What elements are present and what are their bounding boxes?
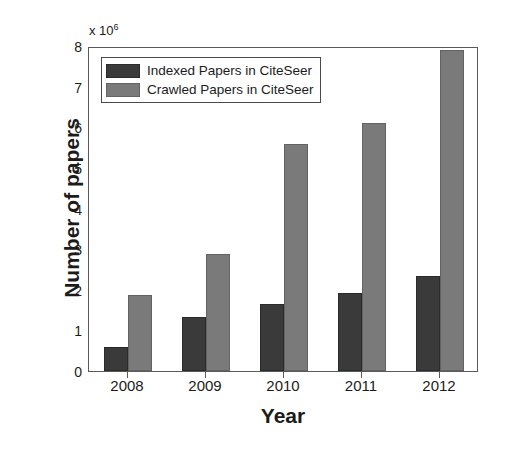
legend-label-indexed: Indexed Papers in CiteSeer [147,63,312,78]
bar-crawled-2012 [440,50,464,371]
bar-indexed-2010 [260,304,284,371]
x-tick-label-2009: 2009 [175,377,235,394]
plot-area: Indexed Papers in CiteSeer Crawled Paper… [88,47,478,372]
y-tick-label-0: 0 [52,364,82,380]
y-tick-label-2: 2 [52,283,82,299]
x-tick-mark-2008 [127,372,128,378]
y-tick-label-4: 4 [52,202,82,218]
y-axis-exponent-prefix: x 10 [89,23,114,38]
chart-legend: Indexed Papers in CiteSeer Crawled Paper… [101,57,321,103]
bar-crawled-2011 [362,123,386,371]
x-tick-label-2010: 2010 [253,377,313,394]
x-tick-label-2012: 2012 [409,377,469,394]
y-tick-label-6: 6 [52,120,82,136]
bar-indexed-2011 [338,293,362,371]
y-tick-label-5: 5 [52,161,82,177]
bar-crawled-2010 [284,144,308,371]
legend-item-indexed: Indexed Papers in CiteSeer [106,61,314,80]
y-tick-label-7: 7 [52,80,82,96]
x-tick-mark-2009 [205,372,206,378]
x-tick-label-2008: 2008 [97,377,157,394]
y-tick-label-3: 3 [52,242,82,258]
x-tick-mark-2012 [439,372,440,378]
x-axis-title: Year [88,404,478,428]
x-tick-label-2011: 2011 [331,377,391,394]
chart-figure: x 106 Number of papers Year 012345678 20… [0,0,510,449]
bar-crawled-2009 [206,254,230,371]
legend-swatch-indexed-icon [106,64,140,78]
x-tick-mark-2010 [283,372,284,378]
legend-item-crawled: Crawled Papers in CiteSeer [106,80,314,99]
y-tick-label-8: 8 [52,39,82,55]
legend-swatch-crawled-icon [106,83,140,97]
bar-indexed-2012 [416,276,440,371]
y-axis-exponent-power: 6 [114,22,119,32]
y-axis-exponent-label: x 106 [89,22,119,38]
y-tick-label-1: 1 [52,323,82,339]
legend-label-crawled: Crawled Papers in CiteSeer [147,82,314,97]
x-tick-mark-2011 [361,372,362,378]
bar-crawled-2008 [128,295,152,371]
bar-indexed-2008 [104,347,128,371]
bar-indexed-2009 [182,317,206,371]
